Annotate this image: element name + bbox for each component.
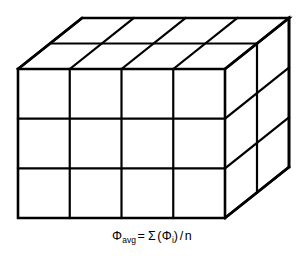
figure-root: Φavg=Σ(Φi)/n xyxy=(0,0,304,257)
cube-diagram xyxy=(0,0,304,257)
